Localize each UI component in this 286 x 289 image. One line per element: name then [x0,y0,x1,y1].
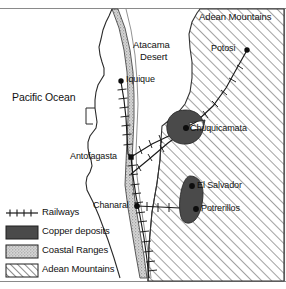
marker-antofagasta [128,154,133,159]
marker-chanaral [134,203,140,209]
legend-label-copper-deposits: Copper deposits [42,226,110,236]
label-potrerillos: Potrerillos [201,204,240,214]
label-antofagasta: Antofagasta [70,152,117,162]
marker-potrerillos [193,206,199,212]
label-adean-mountains: Adean Mountains [199,12,271,22]
map-figure: Pacific Ocean Atacama Desert Adean Mount… [0,0,286,289]
legend-label-adean-mountains: Adean Mountains [42,264,114,274]
legend-label-railways: Railways [42,207,79,217]
marker-el-salvador [189,183,195,189]
legend-swatch-andes [6,264,38,277]
legend-swatches [6,210,38,278]
label-pacific-ocean: Pacific Ocean [12,92,75,103]
marker-potosi [244,47,249,52]
label-potosi: Potosi [211,44,235,54]
label-chuquicamata: Chuquicamata [190,124,247,134]
legend-swatch-coastal [6,245,38,258]
label-atacama-desert-line1: Atacama [133,40,170,50]
legend-swatch-copper [6,226,38,239]
legend-label-coastal-ranges: Coastal Ranges [42,245,108,255]
label-chanaral: Chanaral [93,201,129,211]
marker-chuquicamata [183,125,189,131]
label-atacama-desert-line2: Desert [140,52,167,62]
label-iquique: Iquique [126,75,155,85]
marker-iquique [118,78,123,83]
label-el-salvador: El Salvador [197,181,242,191]
